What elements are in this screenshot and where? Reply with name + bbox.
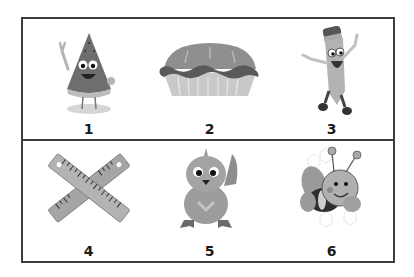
picture-row-1: 1 2 <box>23 19 393 141</box>
picture-cell-4: 4 <box>27 140 150 261</box>
crossed-rulers-icon <box>41 148 137 228</box>
picture-cell-1: 1 <box>27 19 150 139</box>
picture-cell-6: 6 <box>270 140 393 261</box>
picture-cell-5: 5 <box>148 140 271 261</box>
bee-icon <box>294 144 370 232</box>
watermelon-slice-icon <box>59 29 119 119</box>
picture-cell-2: 2 <box>148 19 271 139</box>
picture-number: 4 <box>27 243 150 259</box>
picture-number: 5 <box>148 243 271 259</box>
picture-number: 2 <box>148 121 271 137</box>
picture-cell-3: 3 <box>270 19 393 139</box>
pie-icon <box>158 41 262 103</box>
picture-row-2: 4 5 <box>23 140 393 261</box>
picture-number: 6 <box>270 243 393 259</box>
picture-grid-card: 1 2 <box>21 17 395 263</box>
pencil-character-icon <box>299 21 365 121</box>
picture-number: 3 <box>270 121 393 137</box>
picture-number: 1 <box>27 121 150 137</box>
chick-icon <box>174 144 246 232</box>
